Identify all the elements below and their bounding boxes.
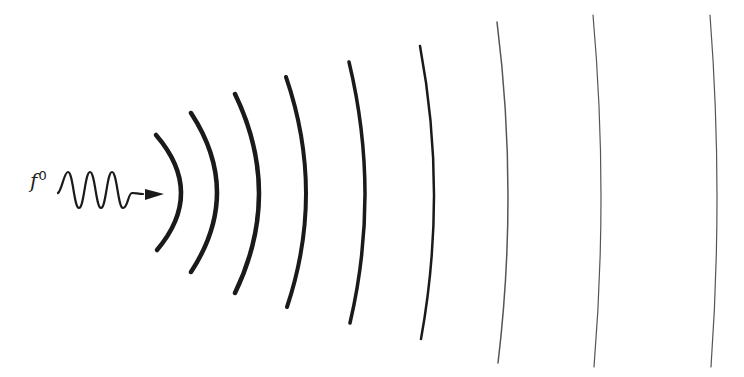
wave-propagation-diagram: f0 (0, 0, 744, 377)
wavefront-arcs (156, 15, 717, 367)
arrowhead-icon (145, 189, 164, 200)
wavefront-arc-7 (497, 22, 508, 363)
wavefront-arc-5 (349, 62, 365, 323)
wavefront-arc-4 (286, 77, 306, 307)
wavefront-arc-2 (191, 113, 217, 272)
wave-graphic (0, 0, 744, 377)
oscillating-wave-icon (58, 172, 143, 208)
wavefront-arc-3 (235, 94, 259, 293)
wavefront-arc-8 (593, 15, 601, 367)
wavefront-arc-9 (710, 15, 717, 367)
wavefront-arc-6 (420, 46, 434, 339)
wavefront-arc-1 (156, 135, 181, 250)
